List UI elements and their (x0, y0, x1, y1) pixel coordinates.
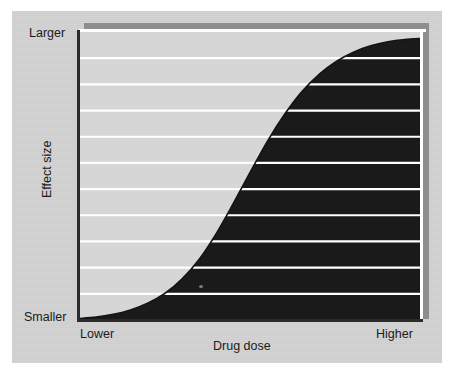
plot-frame-right-highlight (420, 29, 423, 321)
y-axis-title: Effect size (41, 109, 54, 229)
y-axis-tick-label-bottom: Smaller (24, 311, 66, 324)
x-axis-line (77, 319, 423, 322)
y-axis-tick-label-top: Larger (29, 27, 65, 40)
dose-response-curve-svg (79, 32, 422, 320)
plot-area (79, 32, 422, 320)
y-axis-line (77, 30, 80, 322)
x-axis-title: Drug dose (213, 340, 271, 353)
plot-shadow-right (423, 23, 429, 319)
dose-response-figure: Larger Smaller Lower Higher Drug dose Ef… (0, 0, 454, 374)
x-axis-tick-label-right: Higher (376, 328, 413, 341)
x-axis-tick-label-left: Lower (80, 328, 114, 341)
area-fill (79, 38, 422, 320)
plot-frame-top-highlight (79, 29, 426, 32)
print-speck-artifact (199, 285, 203, 288)
